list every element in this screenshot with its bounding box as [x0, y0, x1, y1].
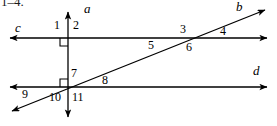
angle-label-11: 11: [72, 91, 84, 103]
line-label-c: c: [15, 22, 21, 34]
angle-label-5: 5: [148, 39, 154, 51]
angle-label-10: 10: [49, 91, 61, 103]
angle-label-8: 8: [102, 74, 108, 86]
angle-label-4: 4: [220, 25, 226, 37]
line-label-d: d: [253, 65, 260, 77]
angle-label-1: 1: [54, 19, 60, 31]
geometry-figure: 1–4. a b c d 1 2 3 4 5 6 7 8 9 10: [0, 0, 277, 126]
angle-label-7: 7: [71, 67, 77, 79]
right-angle-mark-lower: [60, 79, 68, 87]
angle-label-3: 3: [180, 23, 186, 35]
line-label-b: b: [236, 1, 243, 13]
line-label-a: a: [84, 3, 91, 15]
transversal-lines-diagram: [0, 0, 277, 126]
angle-label-9: 9: [22, 88, 28, 100]
right-angle-mark-upper: [60, 38, 68, 46]
angle-label-2: 2: [73, 19, 79, 31]
angle-label-6: 6: [186, 41, 192, 53]
